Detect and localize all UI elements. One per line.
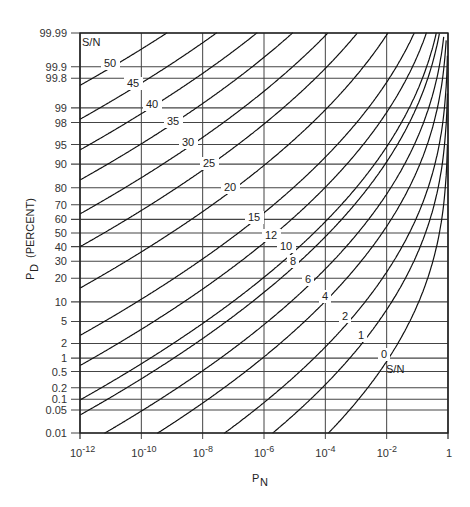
y-tick-label: 95	[55, 139, 67, 151]
roc-curve-20	[80, 33, 388, 288]
grid-lines	[71, 33, 448, 439]
legend-title: S/N	[82, 36, 100, 48]
y-tick-label: 0.05	[46, 404, 67, 416]
svg-text:D: D	[28, 264, 40, 272]
y-tick-label: 1	[61, 352, 67, 364]
y-tick-label: 10	[55, 296, 67, 308]
y-tick-label: 2	[61, 337, 67, 349]
svg-text:P: P	[24, 273, 36, 280]
axes: 99.9999.999.8999895908070605040302010521…	[39, 27, 452, 459]
roc-curve-25	[80, 33, 357, 247]
curve-label-35: 35	[167, 115, 179, 127]
sn-annotation: S/N	[386, 363, 404, 375]
y-tick-label: 20	[55, 272, 67, 284]
curve-label-10: 10	[280, 240, 292, 252]
y-tick-label: 99.9	[46, 61, 67, 73]
y-tick-label: 98	[55, 117, 67, 129]
x-tick-label: 10-6	[254, 444, 274, 459]
y-tick-label: 99.99	[39, 27, 67, 39]
x-tick-label: 10-8	[193, 444, 213, 459]
curve-label-15: 15	[248, 211, 260, 223]
roc-chart: 50454035302520151210864210S/N 99.9999.99…	[0, 0, 470, 507]
y-tick-label: 90	[55, 158, 67, 170]
curve-label-40: 40	[146, 98, 158, 110]
y-tick-label: 50	[55, 227, 67, 239]
x-tick-label: 10-12	[70, 444, 95, 459]
y-tick-label: 5	[61, 315, 67, 327]
curve-label-2: 2	[342, 310, 348, 322]
y-tick-label: 99	[55, 102, 67, 114]
y-tick-label: 70	[55, 199, 67, 211]
y-tick-label: 0.2	[52, 382, 67, 394]
x-tick-label: 10-10	[131, 444, 156, 459]
curve-label-50: 50	[104, 57, 116, 69]
svg-text:P: P	[252, 472, 259, 484]
curve-label-20: 20	[224, 181, 236, 193]
x-tick-label: 10-4	[315, 444, 335, 459]
svg-text:(PERCENT): (PERCENT)	[24, 198, 36, 258]
y-tick-label: 0.01	[46, 427, 67, 439]
curve-label-45: 45	[127, 77, 139, 89]
roc-curve-40	[80, 33, 257, 150]
curve-label-12: 12	[265, 229, 277, 241]
x-tick-label: 10-2	[377, 444, 397, 459]
roc-curve-0	[328, 145, 447, 433]
y-tick-label: 60	[55, 213, 67, 225]
y-tick-label: 0.5	[52, 366, 67, 378]
curve-label-8: 8	[290, 255, 296, 267]
curve-label-6: 6	[305, 273, 311, 285]
curve-label-1: 1	[358, 329, 364, 341]
curve-label-25: 25	[203, 157, 215, 169]
x-tick-label: 1	[446, 447, 452, 459]
curve-labels: 50454035302520151210864210S/N	[101, 57, 404, 375]
y-tick-label: 99.8	[46, 72, 67, 84]
x-axis-subscript: N	[260, 476, 268, 488]
y-tick-label: 80	[55, 182, 67, 194]
roc-curve-35	[80, 33, 293, 180]
x-axis-label: P N	[252, 472, 268, 488]
y-tick-label: 30	[55, 255, 67, 267]
curve-label-0: 0	[381, 348, 387, 360]
y-axis-label: P D (PERCENT)	[24, 198, 40, 280]
y-tick-label: 40	[55, 241, 67, 253]
curve-label-4: 4	[322, 290, 328, 302]
curve-label-30: 30	[182, 136, 194, 148]
